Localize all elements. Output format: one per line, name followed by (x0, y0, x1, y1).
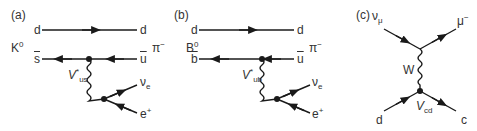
panel-c-w-boson: W (403, 64, 414, 76)
panel-b-bottom-left-antiquark: b (191, 53, 198, 65)
panel-b-label: (b) (174, 9, 189, 21)
panel-a-top-right-quark: d (140, 24, 147, 36)
w-boson-wiggle (87, 59, 104, 101)
panel-b-bottom-right-antiquark: u (297, 53, 304, 65)
panel-c-incoming-quark: d (376, 114, 383, 126)
panel-a-top-left-quark: d (34, 24, 41, 36)
panel-b-top-left-quark: d (191, 24, 198, 36)
panel-b-final-meson: π− (309, 42, 322, 54)
panel-b-neutrino: νe (312, 76, 322, 88)
panel-a-coupling: V*us (68, 69, 88, 81)
panel-a-meson: K0 (11, 42, 23, 54)
panel-a-diagram (42, 30, 137, 113)
panel-c-outgoing-quark: c (461, 114, 467, 126)
panel-a-final-meson: π− (152, 42, 165, 54)
panel-b-top-right-quark: d (297, 24, 304, 36)
panel-b-positron: e+ (312, 108, 323, 120)
panel-a-label: (a) (11, 9, 26, 21)
panel-a-positron: e+ (140, 108, 151, 120)
panel-c-incoming-neutrino: νμ (372, 10, 383, 22)
panel-b-coupling: V*ub (242, 69, 262, 81)
panel-a-neutrino: νe (140, 76, 150, 88)
panel-c-coupling: Vcd (416, 100, 432, 112)
panel-a-bottom-right-antiquark: u (140, 53, 147, 65)
panel-c-label: (c) (356, 9, 370, 21)
panel-a-bottom-left-antiquark: s (34, 53, 40, 65)
panel-c-outgoing-muon: μ− (457, 15, 469, 27)
